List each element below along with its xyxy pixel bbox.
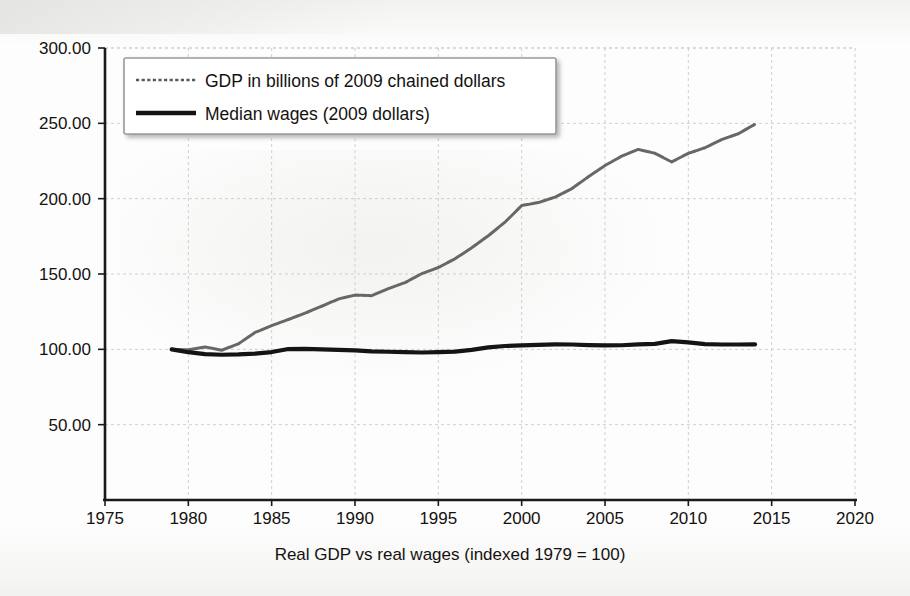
x-axis-tick-labels: 1975198019851990199520002005201020152020 [86,500,874,528]
x-axis-tick-label: 2020 [836,509,874,528]
x-axis-tick-label: 1985 [253,509,291,528]
x-axis-tick-label: 2010 [669,509,707,528]
legend-label-gdp: GDP in billions of 2009 chained dollars [205,71,506,91]
x-axis-tick-label: 1980 [169,509,207,528]
chart-legend: GDP in billions of 2009 chained dollars … [124,58,556,134]
data-series [172,124,755,355]
y-axis-tick-label: 300.00 [39,39,91,58]
x-axis-tick-label: 2000 [503,509,541,528]
y-axis-tick-label: 150.00 [39,265,91,284]
x-axis-title: Real GDP vs real wages (indexed 1979 = 1… [275,545,626,564]
y-axis-tick-label: 100.00 [39,340,91,359]
series-line-gdp [172,124,755,350]
y-axis-tick-label: 250.00 [39,114,91,133]
y-axis-tick-labels: 50.00100.00150.00200.00250.00300.00 [39,39,105,435]
y-axis-tick-label: 200.00 [39,190,91,209]
x-axis-tick-label: 1995 [419,509,457,528]
series-line-wages [172,341,755,355]
chart-page: 50.00100.00150.00200.00250.00300.00 1975… [0,0,910,596]
line-chart: 50.00100.00150.00200.00250.00300.00 1975… [0,0,910,596]
legend-label-wages: Median wages (2009 dollars) [205,104,430,124]
x-axis-tick-label: 2015 [753,509,791,528]
y-axis-tick-label: 50.00 [48,416,91,435]
x-axis-tick-label: 1990 [336,509,374,528]
x-axis-tick-label: 1975 [86,509,124,528]
x-axis-tick-label: 2005 [586,509,624,528]
